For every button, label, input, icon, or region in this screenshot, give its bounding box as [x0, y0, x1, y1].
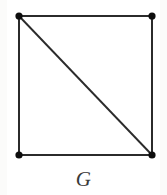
graph-edge-layer [19, 16, 152, 155]
graph-vertex-v1 [15, 12, 22, 19]
graph-vertex-v4 [148, 151, 155, 158]
graph-figure: G [0, 0, 167, 195]
graph-vertex-v2 [148, 12, 155, 19]
figure-caption-label: G [0, 166, 167, 192]
graph-vertex-v3 [15, 151, 22, 158]
graph-edge-e-diag [19, 16, 152, 155]
